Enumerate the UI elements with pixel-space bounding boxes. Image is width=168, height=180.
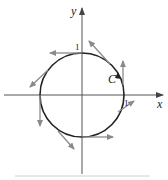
y-axis-label: y — [70, 4, 77, 18]
tick-x-1: 1 — [124, 98, 129, 108]
curve-label: C — [108, 72, 117, 86]
tick-y-1: 1 — [75, 42, 80, 52]
vector-upper-left — [30, 70, 48, 87]
x-axis-label: x — [156, 97, 163, 111]
vector-upper-right — [89, 41, 110, 64]
diagram-canvas: y x 1 1 C — [0, 0, 168, 180]
